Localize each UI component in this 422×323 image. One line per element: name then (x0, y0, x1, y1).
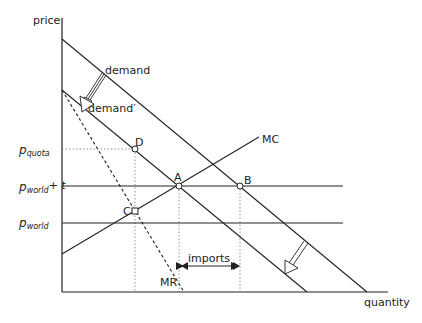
point-b (237, 183, 243, 189)
p-quota-label: pquota (18, 143, 50, 158)
demand-prime-curve (62, 90, 307, 292)
quota-diagram: price quantity demand demand′ MC MR D A … (0, 0, 422, 323)
demand-prime-label: demand′ (88, 102, 136, 115)
p-world-label: pworld (18, 216, 50, 231)
point-c (132, 208, 138, 214)
point-c-label: C (123, 205, 131, 218)
mr-label: MR (160, 276, 177, 289)
demand-label: demand (105, 64, 150, 77)
point-b-label: B (244, 174, 252, 187)
mc-curve (62, 137, 259, 254)
demand-shift-arrow-lower (285, 241, 308, 274)
mr-curve (62, 90, 184, 292)
point-a-label: A (174, 171, 182, 184)
p-world-t-label: pworld+ t (18, 179, 66, 195)
y-axis-label: price (33, 14, 61, 27)
imports-label: imports (188, 252, 230, 265)
mc-label: MC (262, 133, 279, 146)
point-d-label: D (135, 136, 143, 149)
x-axis-label: quantity (364, 296, 410, 309)
